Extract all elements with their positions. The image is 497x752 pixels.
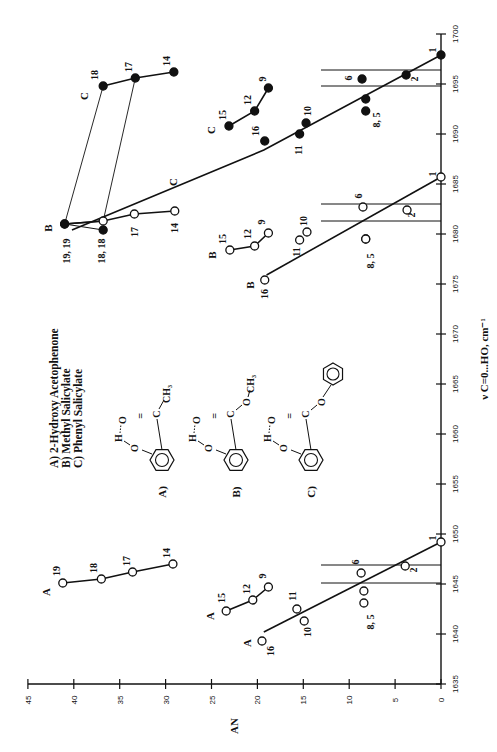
series-line-B-head (65, 221, 104, 224)
svg-text:O: O (316, 398, 327, 406)
point-label: A (204, 612, 216, 620)
an-tick-label: 35 (116, 695, 125, 704)
data-point (360, 587, 368, 595)
point-label: 1 (427, 172, 438, 177)
data-point (261, 137, 269, 145)
point-label: B (206, 251, 218, 259)
point-label: C (205, 126, 217, 134)
point-label: 14 (169, 223, 180, 233)
point-label: 18 (89, 70, 100, 80)
frequency-tick-label: 1665 (451, 375, 460, 393)
legend: A) 2-Hydroxy AcetophenoneB) Methyl Salic… (48, 328, 85, 468)
an-tick-label: 0 (437, 697, 446, 702)
point-label: 16 (265, 646, 276, 656)
frequency-tick-label: 1700 (451, 25, 460, 43)
point-label: 1 (427, 48, 438, 53)
svg-text:O: O (203, 444, 214, 452)
svg-text:H: H (262, 434, 273, 442)
data-point (222, 607, 230, 615)
point-label: 12 (241, 584, 252, 594)
data-point (359, 203, 367, 211)
point-label: 17 (121, 556, 132, 566)
chart: 1635164016451650165516601665167016751680… (0, 0, 497, 752)
data-point (360, 599, 368, 607)
an-tick-label: 15 (299, 695, 308, 704)
svg-text:=: = (135, 413, 146, 419)
svg-text:=: = (284, 413, 295, 419)
svg-text:=: = (209, 413, 220, 419)
an-tick-label: 45 (24, 695, 33, 704)
point-label: 2 (409, 77, 420, 82)
point-label: 15 (217, 234, 228, 244)
data-point (296, 130, 304, 138)
frequency-tick-label: 1695 (451, 75, 460, 93)
point-label: 11 (293, 145, 304, 154)
data-point (264, 229, 272, 237)
frequency-tick-label: 1690 (451, 125, 460, 143)
point-label: 14 (161, 548, 172, 558)
data-point (358, 75, 366, 83)
point-label: 11 (287, 591, 298, 600)
frequency-tick-label: 1645 (451, 575, 460, 593)
data-point (264, 84, 272, 92)
data-point (251, 107, 259, 115)
data-point (59, 579, 67, 587)
point-label: 2 (406, 213, 417, 218)
connector-line (65, 86, 104, 224)
svg-text:CH₃: CH₃ (245, 375, 256, 393)
point-label: 17 (123, 62, 134, 72)
point-label: 6 (350, 560, 361, 565)
point-label: 10 (298, 216, 309, 226)
svg-text:C: C (300, 410, 311, 417)
point-label: 10 (302, 627, 313, 637)
data-point (169, 560, 177, 568)
data-point (293, 605, 301, 613)
structure-B): OHO=COCH₃B) (187, 375, 256, 498)
structure-label: C) (305, 486, 318, 498)
data-point (362, 235, 370, 243)
point-label: 10 (302, 106, 313, 116)
svg-text:CH₃: CH₃ (161, 385, 172, 403)
frequency-tick-label: 1670 (451, 325, 460, 343)
point-label: B (244, 281, 256, 289)
data-point (226, 246, 234, 254)
data-point (302, 119, 310, 127)
point-label: 18 (88, 563, 99, 573)
point-label: 19, 19 (61, 239, 72, 264)
data-point (99, 217, 107, 225)
svg-text:O: O (117, 416, 128, 424)
svg-text:H: H (113, 434, 124, 442)
data-point (251, 242, 259, 250)
fit-line-A (264, 542, 441, 632)
frequency-tick-label: 1685 (451, 175, 460, 193)
an-tick-label: 20 (253, 695, 262, 704)
data-point (61, 220, 69, 228)
svg-text:O: O (278, 444, 289, 452)
series-line-A-high-AN (63, 564, 173, 583)
point-label: A (241, 639, 253, 647)
fit-lines (63, 55, 441, 632)
point-label: 16 (250, 126, 261, 136)
fit-line-B (267, 177, 441, 275)
point-label: 15 (216, 593, 227, 603)
data-point (99, 226, 107, 234)
svg-text:O: O (241, 398, 252, 406)
svg-text:C: C (225, 410, 236, 417)
frequency-tick-label: 1680 (451, 225, 460, 243)
data-point (296, 236, 304, 244)
data-point (171, 207, 179, 215)
point-label: 15 (217, 110, 228, 120)
data-point (97, 575, 105, 583)
point-label: 8, 5 (365, 615, 376, 630)
data-point (303, 228, 311, 236)
data-point (129, 568, 137, 576)
legend-entry: C) Phenyl Salicylate (72, 369, 85, 468)
point-label: C (78, 92, 90, 100)
data-point (362, 107, 370, 115)
point-label: B (42, 224, 54, 232)
rotated-scatter-chart: 1635164016451650165516601665167016751680… (0, 0, 497, 752)
data-points (59, 51, 445, 645)
point-label: 18, 18 (96, 239, 107, 264)
svg-text:O: O (129, 444, 140, 452)
frequency-tick-label: 1650 (451, 525, 460, 543)
